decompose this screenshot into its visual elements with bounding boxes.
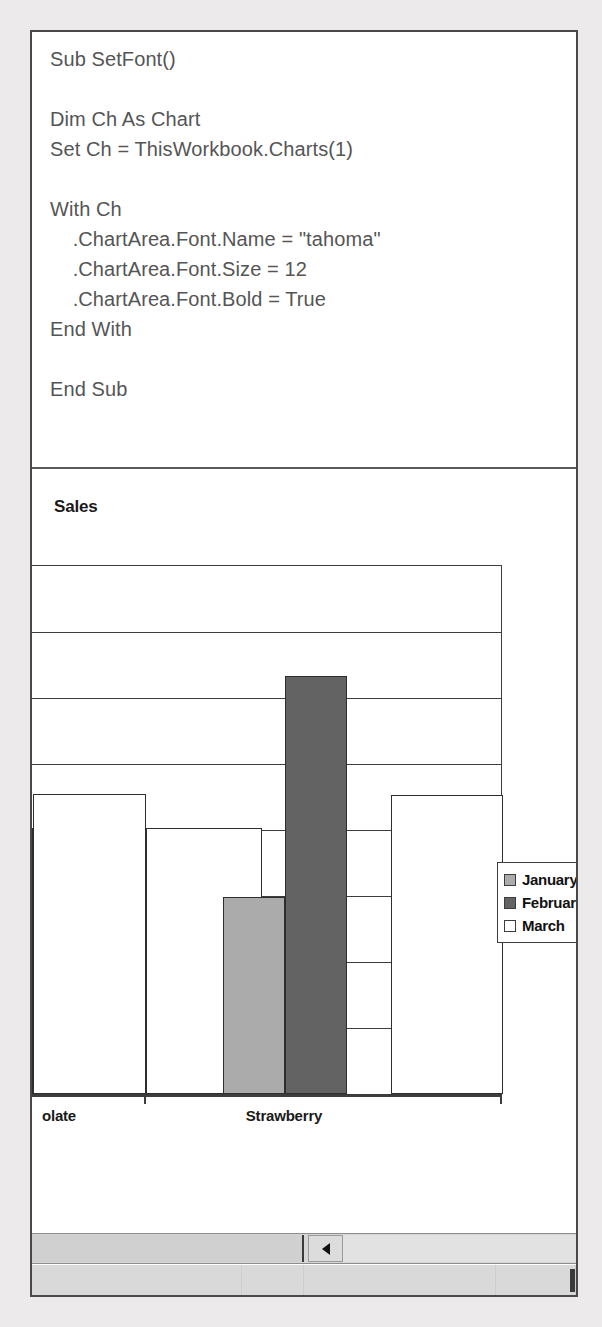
status-cell [496,1265,576,1295]
gridline [32,698,501,699]
triangle-left-icon [322,1243,330,1255]
bar-february-chocolate[interactable] [285,676,347,1094]
status-bar [32,1264,576,1295]
legend-item-march[interactable]: March [504,914,576,937]
legend-label-february: February [522,894,576,911]
scroll-left-button[interactable] [308,1235,343,1262]
category-axis-line [32,1095,502,1097]
bar-january-chocolate[interactable] [223,897,285,1094]
legend-label-march: March [522,917,565,934]
legend-swatch-icon-january [504,874,516,886]
category-label-strawberry: Strawberry [246,1107,322,1124]
chart-legend[interactable]: January February March [497,862,576,943]
bar-march-strawberry[interactable] [391,795,503,1094]
legend-label-january: January [522,871,576,888]
plot-area [32,565,502,1095]
bar-march-vanilla[interactable] [33,794,146,1094]
scrollbar-thumb[interactable] [32,1235,304,1262]
chart-title: Sales [54,497,97,517]
gridline [32,632,501,633]
legend-swatch-icon-february [504,897,516,909]
horizontal-scrollbar[interactable] [32,1233,576,1264]
axis-tick [500,1095,502,1104]
chart-pane[interactable]: Sales [32,473,576,1233]
scrollbar-track-right[interactable] [343,1235,576,1262]
vba-code-text[interactable]: Sub SetFont() Dim Ch As Chart Set Ch = T… [32,32,576,404]
status-cell [242,1265,304,1295]
legend-item-january[interactable]: January [504,868,576,891]
application-window: Sub SetFont() Dim Ch As Chart Set Ch = T… [30,30,578,1297]
chart-canvas: Sales [32,473,576,1233]
axis-tick [144,1095,146,1104]
status-cell [32,1265,242,1295]
legend-item-february[interactable]: February [504,891,576,914]
status-cell [304,1265,496,1295]
resize-grip-icon[interactable] [570,1269,575,1292]
vba-code-pane[interactable]: Sub SetFont() Dim Ch As Chart Set Ch = T… [32,32,576,469]
category-label-chocolate: olate [42,1107,76,1124]
gridline [32,764,501,765]
legend-swatch-icon-march [504,920,516,932]
